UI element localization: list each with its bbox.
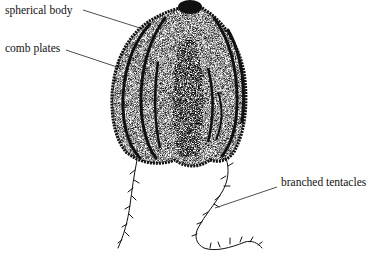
branched-tentacles-shape: [118, 158, 262, 250]
label-spherical-body: spherical body: [5, 5, 72, 17]
label-branched-tentacles: branched tentacles: [281, 177, 366, 189]
label-comb-plates: comb plates: [5, 43, 60, 55]
comb-plates-leader: [66, 50, 120, 68]
ctenophore-illustration: [0, 0, 375, 265]
spherical-body-leader: [83, 10, 140, 28]
branched-tentacles-leader: [215, 187, 277, 208]
